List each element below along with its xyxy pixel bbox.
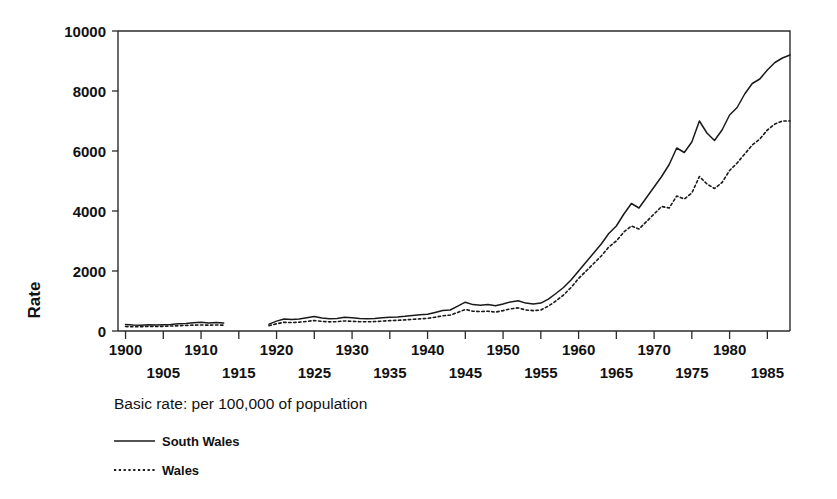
chart-figure: 10000 8000 6000 4000 2000 0 Rate 1900191… [0, 0, 837, 499]
x-tick-label-1915: 1915 [222, 364, 255, 381]
x-tick-labels-upper: 190019101920193019401950196019701980 [109, 341, 746, 358]
y-tick-label-8000: 8000 [73, 83, 106, 100]
x-tick-label-1910: 1910 [184, 341, 217, 358]
x-tick-label-1975: 1975 [675, 364, 708, 381]
series-line-south-wales [126, 55, 790, 325]
y-tick-label-2000: 2000 [73, 263, 106, 280]
y-tick-label-6000: 6000 [73, 143, 106, 160]
x-tick-label-1945: 1945 [449, 364, 482, 381]
x-tick-label-1965: 1965 [600, 364, 633, 381]
x-tick-label-1985: 1985 [751, 364, 784, 381]
y-axis-title: Rate [25, 282, 44, 319]
x-tick-label-1980: 1980 [713, 341, 746, 358]
series-line-wales [126, 121, 790, 327]
x-tick-label-1940: 1940 [411, 341, 444, 358]
series-group [126, 55, 790, 327]
frame-box [118, 31, 790, 331]
x-tick-labels-lower: 190519151925193519451955196519751985 [147, 364, 784, 381]
x-tick-label-1960: 1960 [562, 341, 595, 358]
x-tick-label-1970: 1970 [637, 341, 670, 358]
x-tick-label-1935: 1935 [373, 364, 406, 381]
x-tick-label-1950: 1950 [486, 341, 519, 358]
legend-label-south-wales: South Wales [162, 434, 240, 449]
y-tick-label-0: 0 [98, 323, 106, 340]
x-tick-label-1900: 1900 [109, 341, 142, 358]
chart-legend: South Wales Wales [114, 434, 240, 478]
legend-label-wales: Wales [162, 463, 199, 478]
y-tick-labels: 10000 8000 6000 4000 2000 0 [64, 23, 106, 340]
y-tick-label-10000: 10000 [64, 23, 106, 40]
y-tick-marks [112, 31, 118, 331]
x-tick-label-1905: 1905 [147, 364, 180, 381]
x-tick-marks [126, 331, 768, 339]
chart-caption: Basic rate: per 100,000 of population [114, 395, 367, 412]
y-tick-label-4000: 4000 [73, 203, 106, 220]
plot-frame [118, 31, 790, 331]
x-tick-label-1930: 1930 [335, 341, 368, 358]
x-tick-label-1925: 1925 [298, 364, 331, 381]
line-chart: 10000 8000 6000 4000 2000 0 Rate 1900191… [0, 0, 837, 499]
x-tick-label-1920: 1920 [260, 341, 293, 358]
x-tick-label-1955: 1955 [524, 364, 557, 381]
